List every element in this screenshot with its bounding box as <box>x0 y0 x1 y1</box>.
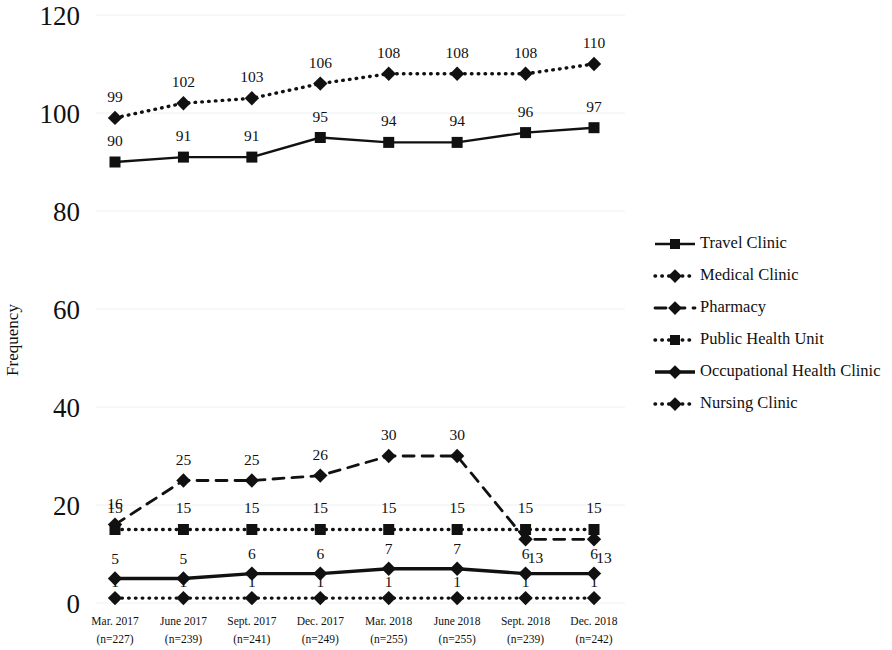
x-tick-label-sample-size: (n=227) <box>96 633 133 646</box>
x-tick-label-period: Mar. 2018 <box>365 615 413 627</box>
data-marker <box>450 67 464 81</box>
label-pharmacy: 25 <box>244 451 260 468</box>
label-occupational-health-clinic: 6 <box>316 545 324 562</box>
legend-label-travel-clinic: Travel Clinic <box>700 233 787 252</box>
label-nursing-clinic: 1 <box>590 573 598 590</box>
data-marker <box>176 96 190 110</box>
data-marker <box>245 91 259 105</box>
x-tick-label-period: June 2018 <box>434 615 481 627</box>
label-occupational-health-clinic: 7 <box>385 540 393 557</box>
label-pharmacy: 26 <box>313 446 329 463</box>
data-marker <box>518 67 532 81</box>
x-tick-label-sample-size: (n=255) <box>439 633 476 646</box>
label-pharmacy: 30 <box>381 426 397 443</box>
label-nursing-clinic: 1 <box>385 573 393 590</box>
label-travel-clinic: 94 <box>381 112 397 129</box>
label-public-health-unit: 15 <box>449 499 465 516</box>
x-axis-tick-labels: Mar. 2017(n=227)June 2017(n=239)Sept. 20… <box>91 615 618 646</box>
data-marker <box>178 152 189 163</box>
label-occupational-health-clinic: 6 <box>248 545 256 562</box>
data-marker <box>178 524 189 535</box>
data-marker <box>520 127 531 138</box>
line-chart-canvas: 120100806040200 Frequency 99102103106108… <box>0 0 892 650</box>
label-nursing-clinic: 1 <box>248 573 256 590</box>
data-marker <box>589 524 600 535</box>
label-public-health-unit: 15 <box>244 499 260 516</box>
label-travel-clinic: 96 <box>518 103 534 120</box>
series-data-labels-group: 9910210310610810810811090919195949496971… <box>107 34 612 590</box>
label-public-health-unit: 15 <box>518 499 534 516</box>
label-public-health-unit: 15 <box>313 499 329 516</box>
legend-marker <box>670 239 680 249</box>
data-marker <box>452 137 463 148</box>
data-marker <box>452 524 463 535</box>
x-tick-label-sample-size: (n=249) <box>302 633 339 646</box>
x-tick-label-period: Mar. 2017 <box>91 615 139 627</box>
y-tick-label: 60 <box>53 295 80 325</box>
data-marker <box>176 473 190 487</box>
label-public-health-unit: 15 <box>586 499 602 516</box>
label-public-health-unit: 15 <box>381 499 397 516</box>
label-nursing-clinic: 1 <box>111 573 119 590</box>
label-medical-clinic: 110 <box>583 34 606 51</box>
legend-label-medical-clinic: Medical Clinic <box>700 265 799 284</box>
series-lines-group <box>115 64 594 598</box>
data-marker <box>245 473 259 487</box>
y-axis-title: Frequency <box>3 304 22 376</box>
chart-legend: Travel ClinicMedical ClinicPharmacyPubli… <box>655 233 881 412</box>
data-marker <box>589 122 600 133</box>
x-tick-label-period: Dec. 2017 <box>297 615 345 627</box>
label-travel-clinic: 97 <box>586 98 602 115</box>
legend-label-occupational-health-clinic: Occupational Health Clinic <box>700 361 881 380</box>
legend-marker <box>668 301 682 315</box>
label-nursing-clinic: 1 <box>316 573 324 590</box>
label-public-health-unit: 15 <box>107 499 123 516</box>
data-marker <box>315 524 326 535</box>
legend-marker <box>668 365 682 379</box>
legend-marker <box>670 335 680 345</box>
data-marker <box>383 137 394 148</box>
label-travel-clinic: 95 <box>313 108 329 125</box>
data-marker <box>587 57 601 71</box>
label-public-health-unit: 15 <box>176 499 192 516</box>
data-marker <box>315 132 326 143</box>
x-tick-label-period: June 2017 <box>160 615 207 627</box>
data-marker <box>383 524 394 535</box>
x-tick-label-sample-size: (n=242) <box>575 633 612 646</box>
data-marker <box>110 157 121 168</box>
legend-marker <box>668 397 682 411</box>
y-tick-label: 0 <box>67 589 81 619</box>
label-medical-clinic: 99 <box>107 88 123 105</box>
label-occupational-health-clinic: 6 <box>590 545 598 562</box>
label-travel-clinic: 94 <box>449 112 465 129</box>
data-marker <box>313 468 327 482</box>
label-travel-clinic: 90 <box>107 132 123 149</box>
data-marker <box>110 524 121 535</box>
label-medical-clinic: 103 <box>240 68 264 85</box>
label-occupational-health-clinic: 7 <box>453 540 461 557</box>
x-tick-label-period: Sept. 2018 <box>501 615 550 628</box>
label-nursing-clinic: 1 <box>522 573 530 590</box>
chart-figure: 120100806040200 Frequency 99102103106108… <box>0 0 892 650</box>
data-marker <box>246 524 257 535</box>
x-tick-label-sample-size: (n=239) <box>165 633 202 646</box>
y-tick-label: 120 <box>40 1 81 31</box>
legend-label-nursing-clinic: Nursing Clinic <box>700 393 798 412</box>
label-travel-clinic: 91 <box>244 127 260 144</box>
label-medical-clinic: 106 <box>309 54 333 71</box>
label-travel-clinic: 91 <box>176 127 192 144</box>
legend-marker <box>668 269 682 283</box>
data-marker <box>382 449 396 463</box>
label-pharmacy: 13 <box>528 549 544 566</box>
label-occupational-health-clinic: 5 <box>111 550 119 567</box>
legend-label-pharmacy: Pharmacy <box>700 297 767 316</box>
label-pharmacy: 25 <box>176 451 192 468</box>
label-occupational-health-clinic: 6 <box>522 545 530 562</box>
data-marker <box>520 524 531 535</box>
y-tick-label: 100 <box>40 99 81 129</box>
label-medical-clinic: 102 <box>172 73 195 90</box>
label-pharmacy: 13 <box>596 549 612 566</box>
data-marker <box>246 152 257 163</box>
x-tick-label-period: Dec. 2018 <box>570 615 618 627</box>
x-tick-label-period: Sept. 2017 <box>227 615 276 628</box>
